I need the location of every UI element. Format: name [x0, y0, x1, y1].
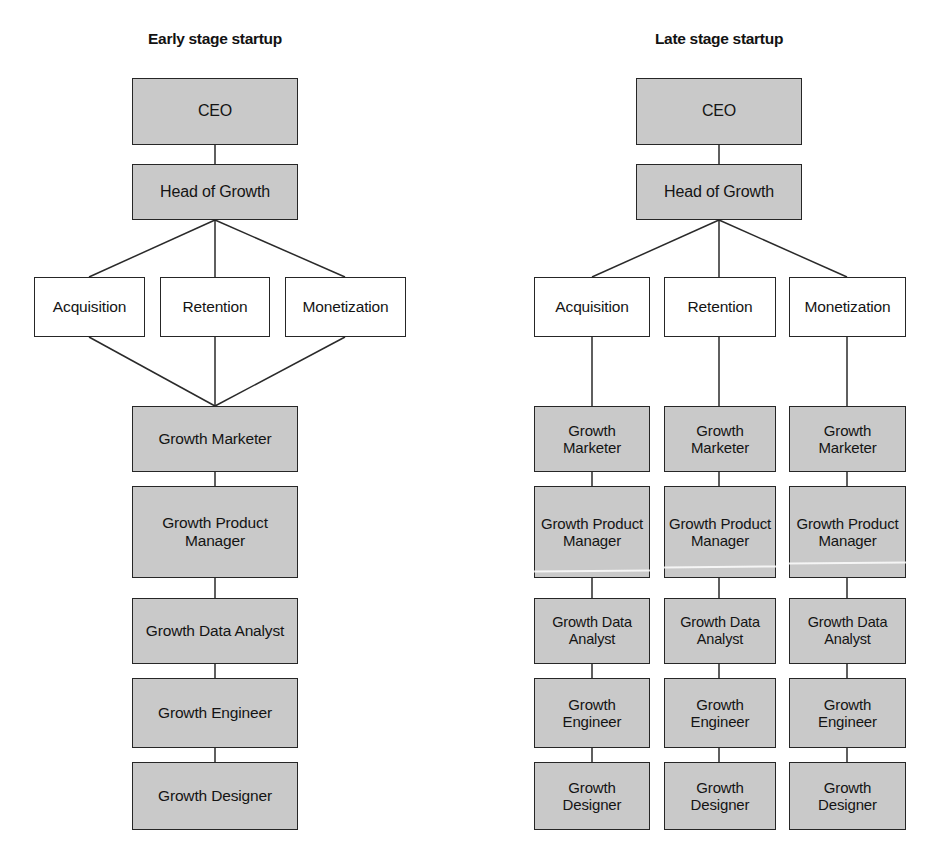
column-title-late-stage: Late stage startup [619, 30, 819, 48]
node-label: Growth Marketer [790, 422, 905, 457]
node-growth-engineer[interactable]: Growth Engineer [534, 678, 650, 748]
node-growth-marketer[interactable]: Growth Marketer [664, 406, 776, 472]
node-growth-engineer[interactable]: Growth Engineer [664, 678, 776, 748]
node-label: Growth Designer [535, 779, 649, 814]
node-label: Growth Data Analyst [143, 622, 287, 640]
node-growth-data-analyst[interactable]: Growth Data Analyst [534, 598, 650, 664]
node-growth-engineer[interactable]: Growth Engineer [132, 678, 298, 748]
node-growth-marketer[interactable]: Growth Marketer [132, 406, 298, 472]
node-label: Monetization [299, 298, 391, 316]
node-label: Monetization [801, 298, 893, 316]
node-label: Growth Product Manager [665, 515, 775, 550]
node-label: Acquisition [50, 298, 129, 316]
node-ceo[interactable]: CEO [636, 78, 802, 145]
node-retention[interactable]: Retention [160, 277, 270, 337]
org-chart-diagram: Early stage startup Late stage startup C… [0, 0, 933, 859]
node-label: Retention [684, 298, 755, 316]
node-growth-marketer[interactable]: Growth Marketer [789, 406, 906, 472]
node-growth-product-manager[interactable]: Growth Product Manager [789, 486, 906, 578]
node-acquisition[interactable]: Acquisition [534, 277, 650, 337]
node-ceo[interactable]: CEO [132, 78, 298, 145]
node-monetization[interactable]: Monetization [285, 277, 406, 337]
node-label: Growth Product Manager [535, 515, 649, 550]
node-label: CEO [195, 102, 235, 121]
node-label: Growth Designer [155, 787, 275, 805]
node-label: Growth Marketer [155, 430, 274, 448]
node-label: Growth Data Analyst [665, 614, 775, 648]
node-growth-designer[interactable]: Growth Designer [664, 762, 776, 830]
node-growth-marketer[interactable]: Growth Marketer [534, 406, 650, 472]
node-label: Acquisition [552, 298, 631, 316]
node-label: Growth Product Manager [790, 515, 905, 550]
connector-head-to-monetization [215, 220, 345, 277]
node-label: Growth Designer [790, 779, 905, 814]
node-label: Growth Engineer [665, 696, 775, 731]
node-growth-engineer[interactable]: Growth Engineer [789, 678, 906, 748]
node-growth-data-analyst[interactable]: Growth Data Analyst [789, 598, 906, 664]
node-monetization[interactable]: Monetization [789, 277, 906, 337]
node-label: CEO [699, 102, 739, 121]
node-label: Retention [179, 298, 250, 316]
node-label: Growth Engineer [535, 696, 649, 731]
node-growth-designer[interactable]: Growth Designer [132, 762, 298, 830]
column-title-early-stage: Early stage startup [115, 30, 315, 48]
connector-head-to-acquisition [592, 220, 719, 277]
node-label: Growth Product Manager [133, 514, 297, 550]
node-growth-data-analyst[interactable]: Growth Data Analyst [132, 598, 298, 664]
node-label: Growth Engineer [155, 704, 275, 722]
node-label: Growth Data Analyst [790, 614, 905, 648]
node-growth-data-analyst[interactable]: Growth Data Analyst [664, 598, 776, 664]
node-growth-designer[interactable]: Growth Designer [789, 762, 906, 830]
node-label: Growth Marketer [535, 422, 649, 457]
node-head-of-growth[interactable]: Head of Growth [132, 164, 298, 220]
node-label: Growth Engineer [790, 696, 905, 731]
node-growth-designer[interactable]: Growth Designer [534, 762, 650, 830]
node-label: Growth Designer [665, 779, 775, 814]
node-label: Growth Data Analyst [535, 614, 649, 648]
node-growth-product-manager[interactable]: Growth Product Manager [534, 486, 650, 578]
node-label: Head of Growth [157, 183, 273, 202]
node-label: Growth Marketer [665, 422, 775, 457]
node-growth-product-manager[interactable]: Growth Product Manager [664, 486, 776, 578]
connector-head-to-monetization [719, 220, 847, 277]
connector-acquisition-to-marketer [89, 337, 215, 406]
node-acquisition[interactable]: Acquisition [34, 277, 145, 337]
node-label: Head of Growth [661, 183, 777, 202]
node-growth-product-manager[interactable]: Growth Product Manager [132, 486, 298, 578]
connector-head-to-acquisition [89, 220, 215, 277]
connector-monetization-to-marketer [215, 337, 345, 406]
node-retention[interactable]: Retention [664, 277, 776, 337]
node-head-of-growth[interactable]: Head of Growth [636, 164, 802, 220]
